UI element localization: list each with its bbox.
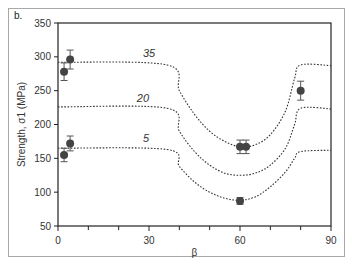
y-tick-label: 300 bbox=[34, 51, 51, 62]
y-tick-label: 200 bbox=[34, 119, 51, 130]
curve-5 bbox=[58, 148, 331, 201]
y-axis-title: Strength, σ1 (MPa) bbox=[16, 82, 27, 167]
y-tick-label: 50 bbox=[40, 221, 52, 232]
y-tick-label: 250 bbox=[34, 85, 51, 96]
data-point bbox=[66, 139, 74, 147]
strength-vs-beta-chart: 501001502002503003500306090βStrength, σ1… bbox=[0, 0, 352, 264]
curve-label: 20 bbox=[136, 92, 150, 104]
data-point bbox=[242, 143, 250, 151]
y-tick-label: 100 bbox=[34, 187, 51, 198]
data-point bbox=[297, 87, 305, 95]
curve-label: 5 bbox=[143, 132, 150, 144]
curve-label: 35 bbox=[143, 47, 156, 59]
data-point bbox=[66, 56, 74, 64]
x-tick-label: 60 bbox=[234, 235, 246, 246]
plot-area bbox=[58, 23, 331, 226]
curve-35 bbox=[58, 62, 331, 147]
x-axis-title: β bbox=[192, 247, 198, 258]
y-tick-label: 350 bbox=[34, 18, 51, 29]
x-tick-label: 0 bbox=[55, 235, 61, 246]
x-tick-label: 90 bbox=[325, 235, 337, 246]
y-tick-label: 150 bbox=[34, 153, 51, 164]
data-point bbox=[60, 151, 68, 159]
x-tick-label: 30 bbox=[143, 235, 155, 246]
data-point bbox=[236, 197, 244, 205]
